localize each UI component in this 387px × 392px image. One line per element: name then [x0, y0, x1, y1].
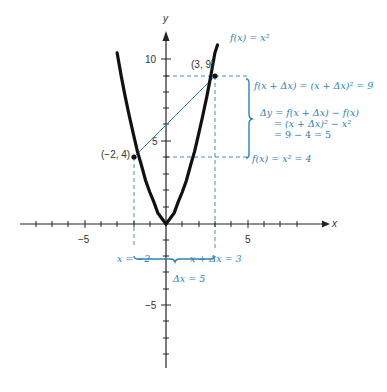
delta-x-label: Δx = 5: [172, 273, 205, 284]
x-axis: [20, 220, 330, 228]
function-label: f(x) = x²: [229, 32, 270, 43]
y-tick-neg5: −5: [145, 300, 157, 311]
point-label-neg2-4: (−2, 4): [101, 149, 130, 160]
y-axis-label: y: [162, 13, 169, 24]
point-3-9: [212, 73, 217, 78]
delta-y-brace: [246, 79, 252, 158]
x-tick-5: 5: [245, 234, 251, 245]
delta-y-line3: = 9 − 4 = 5: [274, 129, 331, 140]
y-tick-10: 10: [145, 54, 157, 65]
x-eq-label: x = −2: [117, 253, 150, 264]
function-diagram: x −5 5 y 10 5 −5: [0, 0, 387, 392]
parabola-curve: [117, 45, 217, 224]
delta-y-line1: Δy = f(x + Δx) − f(x): [259, 107, 359, 118]
x-tick-neg5: −5: [78, 234, 90, 245]
f-x-plus-dx-label: f(x + Δx) = (x + Δx)² = 9: [253, 80, 373, 91]
delta-y-line2: = (x + Δx)² − x²: [274, 118, 351, 129]
x-plus-dx-label: x + Δx = 3: [190, 253, 242, 264]
point-label-3-9: (3, 9): [191, 59, 214, 70]
point-neg2-4: [131, 154, 136, 159]
y-axis: [161, 31, 171, 368]
x-axis-label: x: [331, 218, 338, 229]
f-x-label: f(x) = x² = 4: [251, 153, 312, 164]
